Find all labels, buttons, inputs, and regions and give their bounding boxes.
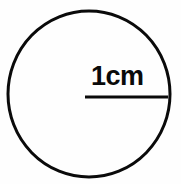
circle-radius-figure: 1cm [0, 0, 181, 184]
diagram-canvas: 1cm [0, 0, 181, 184]
figure-background [0, 0, 181, 184]
radius-measurement-label: 1cm [91, 61, 144, 91]
